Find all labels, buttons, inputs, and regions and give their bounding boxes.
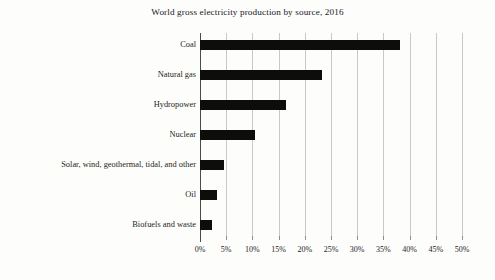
chart-title: World gross electricity production by so… xyxy=(0,7,495,17)
category-axis-labels: CoalNatural gasHydropowerNuclearSolar, w… xyxy=(0,33,200,236)
bar xyxy=(200,70,322,80)
x-tick xyxy=(331,236,332,240)
x-tick xyxy=(226,236,227,240)
category-label: Solar, wind, geothermal, tidal, and othe… xyxy=(4,160,200,169)
x-tick xyxy=(410,236,411,240)
gridline xyxy=(410,33,411,236)
bar xyxy=(200,130,255,140)
gridline xyxy=(279,33,280,236)
bar xyxy=(200,100,286,110)
category-label: Coal xyxy=(4,40,200,49)
x-tick xyxy=(383,236,384,240)
category-label: Natural gas xyxy=(4,70,200,79)
x-tick xyxy=(462,236,463,240)
bar xyxy=(200,190,217,200)
x-tick xyxy=(279,236,280,240)
x-tick xyxy=(200,236,201,242)
gridline xyxy=(383,33,384,236)
bar xyxy=(200,40,400,50)
bar xyxy=(200,160,224,170)
category-label: Hydropower xyxy=(4,100,200,109)
gridline xyxy=(462,33,463,236)
plot-area: 0%5%10%15%20%25%30%35%40%45%50% xyxy=(200,33,462,236)
x-tick xyxy=(305,236,306,240)
gridline xyxy=(357,33,358,236)
category-label: Biofuels and waste xyxy=(4,220,200,229)
x-tick xyxy=(252,236,253,240)
category-label: Nuclear xyxy=(4,130,200,139)
x-tick xyxy=(436,236,437,240)
gridline xyxy=(436,33,437,236)
chart-figure: World gross electricity production by so… xyxy=(0,0,495,280)
x-tick-label: 50% xyxy=(445,245,479,254)
gridline xyxy=(331,33,332,236)
gridline xyxy=(305,33,306,236)
x-tick xyxy=(357,236,358,240)
category-label: Oil xyxy=(4,190,200,199)
bar xyxy=(200,220,212,230)
